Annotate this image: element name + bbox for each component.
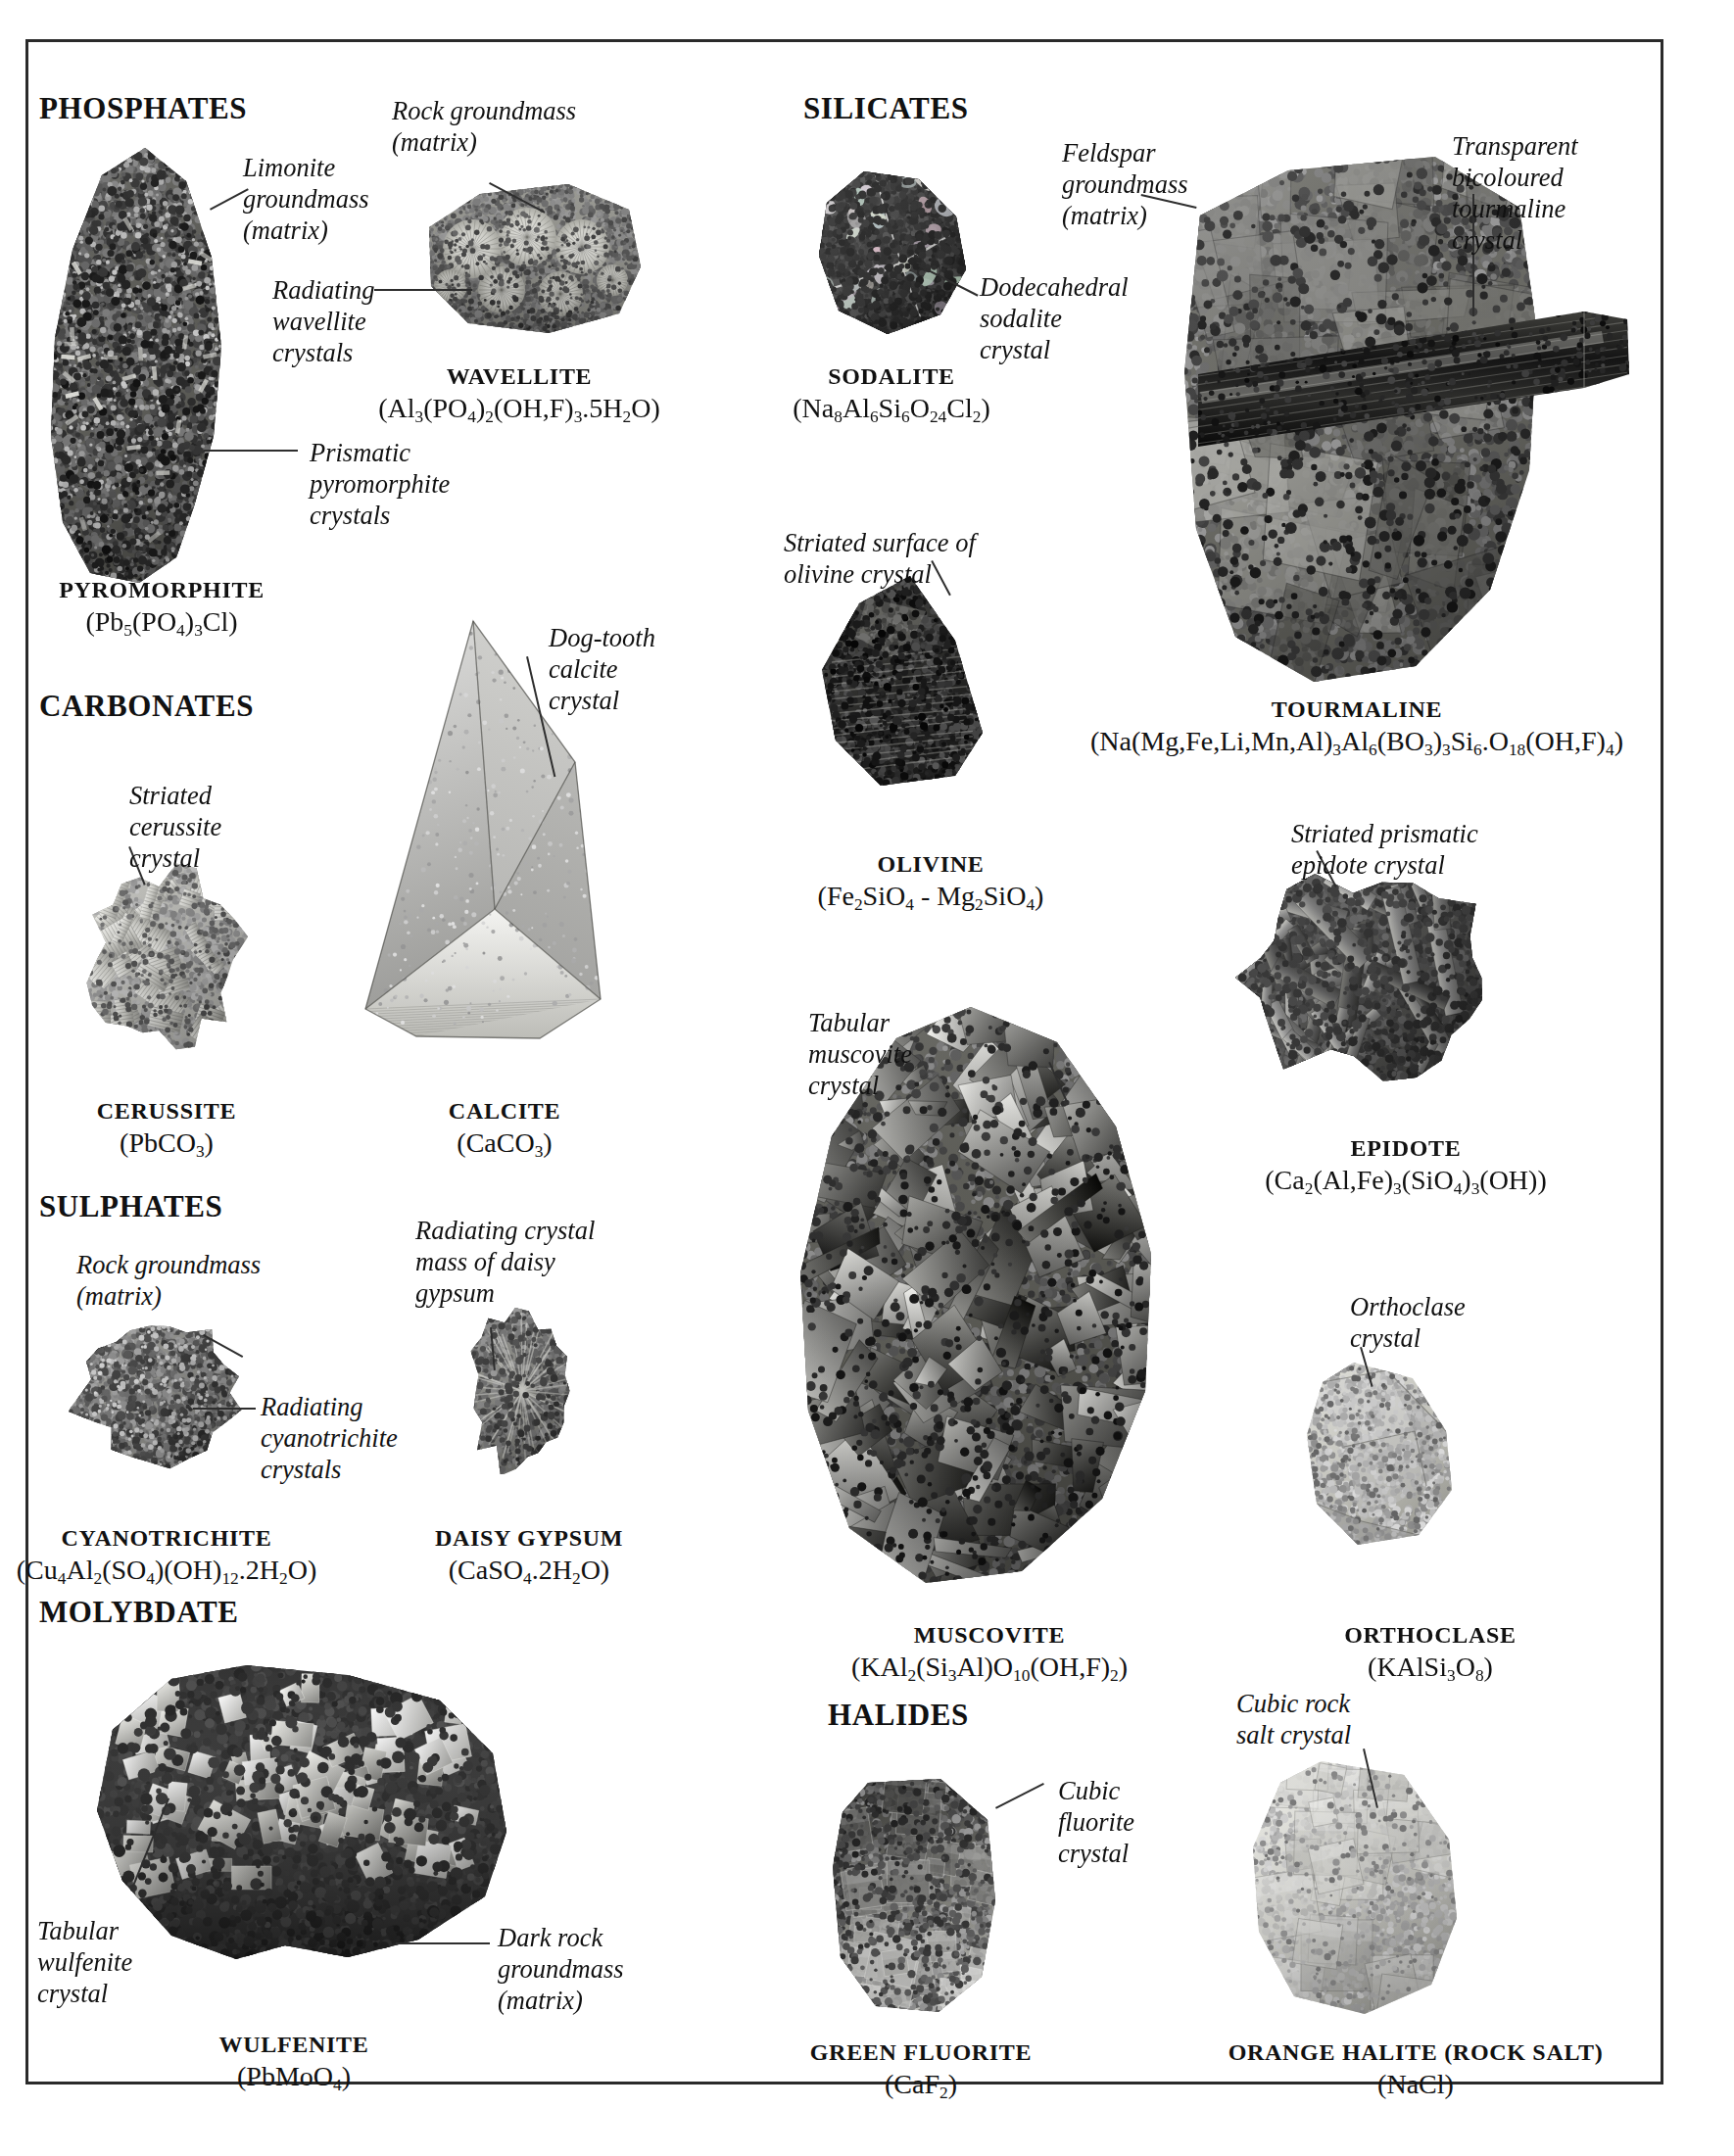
leader-radiating-wavellite	[374, 289, 472, 291]
caption-name: TOURMALINE	[999, 695, 1714, 724]
caption-name: MUSCOVITE	[794, 1621, 1185, 1650]
annotation-limonite-groundmass: Limonite groundmass (matrix)	[243, 152, 369, 246]
caption-name: CALCITE	[343, 1097, 666, 1126]
annotation-cubic-fluorite: Cubic fluorite crystal	[1058, 1775, 1134, 1869]
caption-formula: (Na(Mg,Fe,Li,Mn,Al)3Al6(BO3)3Si6.O18(OH,…	[999, 725, 1714, 761]
caption-cyanotrichite: CYANOTRICHITE (Cu4Al2(SO4)(OH)12.2H2O)	[0, 1524, 333, 1590]
leader-radiating-cyanotrichite	[193, 1408, 256, 1410]
annotation-radiating-wavellite: Radiating wavellite crystals	[272, 274, 375, 368]
caption-name: WULFENITE	[127, 2031, 460, 2059]
caption-formula: (PbCO3)	[0, 1126, 333, 1163]
section-heading-silicates: SILICATES	[803, 93, 969, 125]
section-heading-carbonates: CARBONATES	[39, 691, 254, 723]
caption-name: EPIDOTE	[1161, 1134, 1651, 1163]
section-heading-halides: HALIDES	[828, 1700, 969, 1732]
specimen-image-epidote	[1229, 862, 1499, 1082]
specimen-image-cyanotrichite	[69, 1313, 245, 1469]
section-heading-molybdate: MOLYBDATE	[39, 1597, 239, 1629]
annotation-cubic-rock-salt: Cubic rock salt crystal	[1236, 1688, 1351, 1750]
reference-page: PHOSPHATES CARBONATES SULPHATES MOLYBDAT…	[0, 0, 1734, 2156]
annotation-radiating-cyanotrichite: Radiating cyanotrichite crystals	[261, 1391, 398, 1485]
annotation-feldspar-groundmass: Feldspar groundmass (matrix)	[1062, 137, 1188, 231]
caption-wavellite: WAVELLITE (Al3(PO4)2(OH,F)3.5H2O)	[323, 362, 715, 428]
caption-calcite: CALCITE (CaCO3)	[343, 1097, 666, 1163]
specimen-image-olivine	[808, 568, 994, 793]
annotation-dog-tooth-calcite: Dog-tooth calcite crystal	[549, 622, 655, 716]
caption-cerussite: CERUSSITE (PbCO3)	[0, 1097, 333, 1163]
specimen-image-cerussite	[80, 862, 252, 1053]
specimen-image-pyromorphite	[29, 142, 255, 593]
caption-name: WAVELLITE	[323, 362, 715, 391]
caption-orange-halite: ORANGE HALITE (ROCK SALT) (NaCl)	[1156, 2038, 1675, 2100]
specimen-image-green-fluorite	[823, 1773, 1004, 2023]
annotation-orthoclase-crystal: Orthoclase crystal	[1350, 1291, 1466, 1354]
caption-formula: (KAlSi3O8)	[1225, 1651, 1636, 1687]
caption-muscovite: MUSCOVITE (KAl2(Si3Al)O10(OH,F)2)	[794, 1621, 1185, 1687]
caption-name: OLIVINE	[784, 850, 1078, 879]
caption-name: CYANOTRICHITE	[0, 1524, 333, 1553]
caption-formula: (Cu4Al2(SO4)(OH)12.2H2O)	[0, 1554, 333, 1590]
annotation-tabular-muscovite: Tabular muscovite crystal	[808, 1007, 912, 1101]
annotation-prismatic-pyromorphite: Prismatic pyromorphite crystals	[310, 437, 450, 531]
caption-wulfenite: WULFENITE (PbMoO4)	[127, 2031, 460, 2096]
caption-green-fluorite: GREEN FLUORITE (CaF2)	[779, 2038, 1063, 2104]
section-heading-phosphates: PHOSPHATES	[39, 93, 247, 125]
annotation-rock-groundmass-wavellite: Rock groundmass (matrix)	[392, 95, 576, 158]
caption-formula: (Fe2SiO4 - Mg2SiO4)	[784, 880, 1078, 916]
caption-formula: (CaF2)	[779, 2068, 1063, 2104]
caption-formula: (Al3(PO4)2(OH,F)3.5H2O)	[323, 392, 715, 428]
caption-name: CERUSSITE	[0, 1097, 333, 1126]
caption-name: ORTHOCLASE	[1225, 1621, 1636, 1650]
caption-formula: (Ca2(Al,Fe)3(SiO4)3(OH))	[1161, 1164, 1651, 1200]
caption-formula: (CaCO3)	[343, 1126, 666, 1163]
annotation-striated-olivine: Striated surface of olivine crystal	[784, 527, 976, 590]
annotation-tabular-wulfenite: Tabular wulfenite crystal	[37, 1915, 132, 2009]
annotation-rock-groundmass-cyanotrichite: Rock groundmass (matrix)	[76, 1249, 261, 1312]
caption-formula: (PbMoO4)	[127, 2060, 460, 2096]
caption-formula: (Na8Al6Si6O24Cl2)	[745, 392, 1038, 428]
annotation-striated-epidote: Striated prismatic epidote crystal	[1291, 818, 1478, 881]
caption-epidote: EPIDOTE (Ca2(Al,Fe)3(SiO4)3(OH))	[1161, 1134, 1651, 1200]
specimen-image-wavellite	[411, 176, 647, 343]
caption-orthoclase: ORTHOCLASE (KAlSi3O8)	[1225, 1621, 1636, 1687]
caption-sodalite: SODALITE (Na8Al6Si6O24Cl2)	[745, 362, 1038, 428]
caption-name: DAISY GYPSUM	[382, 1524, 676, 1553]
caption-olivine: OLIVINE (Fe2SiO4 - Mg2SiO4)	[784, 850, 1078, 916]
caption-name: ORANGE HALITE (ROCK SALT)	[1156, 2038, 1675, 2067]
caption-formula: (Pb5(PO4)3Cl)	[0, 605, 323, 642]
specimen-image-daisy-gypsum	[456, 1303, 588, 1474]
leader-dark-rock-groundmass	[396, 1942, 490, 1944]
caption-name: PYROMORPHITE	[0, 576, 323, 604]
caption-daisy-gypsum: DAISY GYPSUM (CaSO4.2H2O)	[382, 1524, 676, 1590]
annotation-striated-cerussite: Striated cerussite crystal	[129, 780, 221, 874]
caption-name: GREEN FLUORITE	[779, 2038, 1063, 2067]
annotation-dark-rock-groundmass: Dark rock groundmass (matrix)	[498, 1922, 624, 2016]
leader-prismatic-pyromorphite	[204, 450, 298, 452]
caption-name: SODALITE	[745, 362, 1038, 391]
specimen-image-sodalite	[803, 162, 975, 343]
caption-formula: (KAl2(Si3Al)O10(OH,F)2)	[794, 1651, 1185, 1687]
section-heading-sulphates: SULPHATES	[39, 1191, 222, 1223]
caption-formula: (CaSO4.2H2O)	[382, 1554, 676, 1590]
caption-pyromorphite: PYROMORPHITE (Pb5(PO4)3Cl)	[0, 576, 323, 642]
annotation-transparent-tourmaline: Transparent bicoloured tourmaline crysta…	[1452, 130, 1578, 256]
specimen-image-orange-halite	[1239, 1753, 1469, 2023]
annotation-radiating-daisy-gypsum: Radiating crystal mass of daisy gypsum	[415, 1215, 595, 1309]
caption-tourmaline: TOURMALINE (Na(Mg,Fe,Li,Mn,Al)3Al6(BO3)3…	[999, 695, 1714, 761]
annotation-dodecahedral-sodalite: Dodecahedral sodalite crystal	[980, 271, 1129, 365]
caption-formula: (NaCl)	[1156, 2068, 1675, 2101]
specimen-image-orthoclase	[1293, 1357, 1465, 1553]
